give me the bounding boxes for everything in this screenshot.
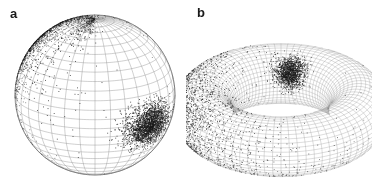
panel-torus: b [186, 0, 372, 190]
torus-scatter-plot [186, 0, 372, 190]
panel-label-a: a [10, 7, 17, 20]
panel-label-b: b [197, 6, 205, 19]
sphere-scatter-plot [0, 0, 186, 190]
figure-root: a b [0, 0, 372, 190]
panel-sphere: a [0, 0, 186, 190]
